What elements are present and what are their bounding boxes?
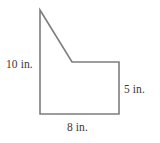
composite-polygon-outline [40, 10, 119, 114]
dimension-label-left-side: 10 in. [6, 58, 33, 71]
geometry-figure-panel: 10 in. 5 in. 8 in. [0, 0, 160, 143]
dimension-label-right-side: 5 in. [124, 83, 145, 96]
dimension-label-bottom-side: 8 in. [67, 121, 88, 134]
